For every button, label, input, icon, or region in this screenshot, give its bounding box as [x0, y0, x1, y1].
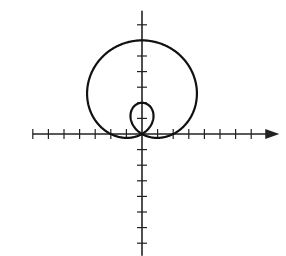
x-axis-arrow-icon [265, 129, 279, 139]
polar-plot [0, 0, 286, 256]
axes [33, 11, 279, 256]
